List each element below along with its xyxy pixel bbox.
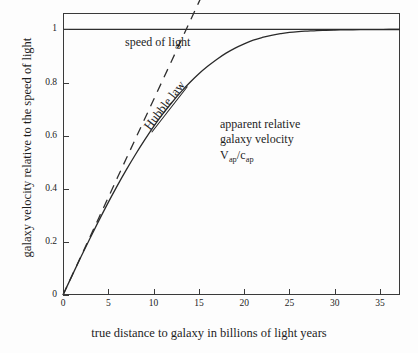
x-tick-mark	[335, 289, 336, 295]
annotation-apparent-line-2: galaxy velocity	[220, 132, 350, 147]
x-tick-mark	[244, 289, 245, 295]
y-tick-label: 0.8	[31, 78, 57, 88]
y-tick-label: 0	[31, 290, 57, 300]
x-tick-mark	[199, 289, 200, 295]
formula-v-symbol: V	[220, 148, 229, 162]
cropped-caption-remnant	[0, 344, 418, 353]
y-tick-label: 1	[31, 24, 57, 34]
y-tick-label: 0.4	[31, 184, 57, 194]
x-tick-mark	[108, 289, 109, 295]
x-tick-mark	[380, 289, 381, 295]
x-tick-label: 35	[367, 299, 393, 309]
annotation-apparent-line-1: apparent relative	[220, 117, 350, 132]
y-tick-mark	[63, 83, 69, 84]
x-tick-label: 25	[276, 299, 302, 309]
annotation-speed-of-light: speed of light	[125, 35, 190, 50]
x-tick-label: 0	[50, 299, 76, 309]
formula-c-subscript: ap	[246, 155, 254, 164]
y-tick-mark	[63, 29, 69, 30]
formula-v-subscript: ap	[229, 155, 237, 164]
annotation-apparent-formula: Vap/cap	[220, 148, 350, 166]
x-tick-mark	[289, 289, 290, 295]
x-tick-label: 20	[231, 299, 257, 309]
y-tick-label: 0.2	[31, 237, 57, 247]
x-tick-label: 10	[141, 299, 167, 309]
plot-area: speed of light Hubble law apparent relat…	[63, 13, 400, 295]
x-axis-title: true distance to galaxy in billions of l…	[0, 326, 418, 341]
x-tick-mark	[154, 289, 155, 295]
annotation-apparent-velocity: apparent relative galaxy velocity Vap/ca…	[220, 117, 350, 166]
y-tick-mark	[63, 295, 69, 296]
y-tick-mark	[63, 189, 69, 190]
formula-separator-c: /c	[237, 148, 246, 162]
y-tick-mark	[63, 242, 69, 243]
x-tick-label: 30	[322, 299, 348, 309]
figure-container: galaxy velocity relative to the speed of…	[0, 0, 418, 353]
y-tick-mark	[63, 136, 69, 137]
x-tick-label: 15	[186, 299, 212, 309]
y-axis-title: galaxy velocity relative to the speed of…	[20, 3, 35, 293]
y-tick-label: 0.6	[31, 131, 57, 141]
x-tick-label: 5	[95, 299, 121, 309]
